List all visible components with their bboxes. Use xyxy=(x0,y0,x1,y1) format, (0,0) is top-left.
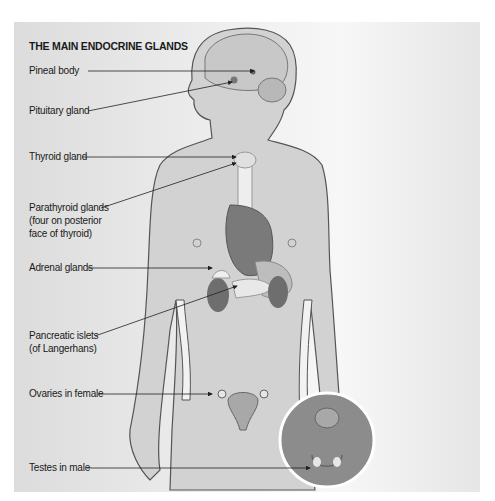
label-testes: Testes in male xyxy=(29,461,90,474)
label-line: (four on posterior xyxy=(29,214,109,227)
male-inset xyxy=(280,393,374,487)
testis-right xyxy=(333,457,341,467)
label-line: Parathyroid glands xyxy=(29,201,109,214)
testis-left xyxy=(313,457,321,467)
thyroid-gland xyxy=(234,152,256,168)
label-ovaries: Ovaries in female xyxy=(29,387,103,400)
label-adrenal-glands: Adrenal glands xyxy=(29,261,93,274)
pineal-body xyxy=(251,70,256,75)
ovary-right xyxy=(260,390,268,398)
kidney-right xyxy=(268,276,288,308)
label-pituitary-gland: Pituitary gland xyxy=(29,104,89,117)
label-line: (of Langerhans) xyxy=(29,342,98,355)
diagram-title: THE MAIN ENDOCRINE GLANDS xyxy=(29,40,188,52)
label-pineal-body: Pineal body xyxy=(29,64,79,77)
label-line: Pancreatic islets xyxy=(29,329,98,342)
label-line: face of thyroid) xyxy=(29,227,109,240)
ovary-left xyxy=(218,390,226,398)
label-thyroid-gland: Thyroid gland xyxy=(29,150,87,163)
label-pancreatic-islets: Pancreatic islets (of Langerhans) xyxy=(29,329,98,355)
cerebellum xyxy=(258,78,286,102)
label-parathyroid-glands: Parathyroid glands (four on posterior fa… xyxy=(29,201,109,240)
